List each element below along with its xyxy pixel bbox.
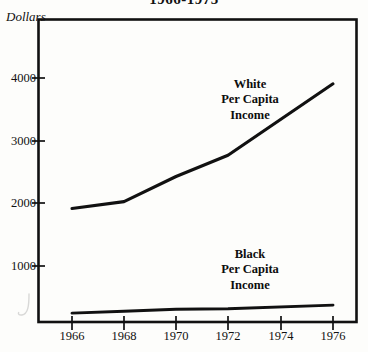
series-label-white-line3: Income <box>194 108 306 123</box>
series-line-black <box>72 305 333 313</box>
x-tick-label-1966: 1966 <box>45 330 99 343</box>
series-label-white-line2: Per Capita <box>194 92 306 107</box>
x-tick-label-1970: 1970 <box>149 330 203 343</box>
series-label-black-line3: Income <box>194 278 306 293</box>
y-axis-tick-labels: 4000 3000 2000 1000 <box>0 0 36 352</box>
y-tick-label-3000: 3000 <box>0 135 36 148</box>
x-tick-label-1976: 1976 <box>306 330 360 343</box>
chart-figure: 1966-1975 Dollars 4000 300 <box>0 0 368 352</box>
y-tick-label-1000: 1000 <box>0 260 36 273</box>
x-axis-tick-labels: 1966 1968 1970 1972 1974 1976 <box>0 330 368 350</box>
series-label-black: Black Per Capita Income <box>194 247 306 293</box>
series-label-black-line1: Black <box>194 247 306 262</box>
y-tick-label-2000: 2000 <box>0 197 36 210</box>
series-label-black-line2: Per Capita <box>194 262 306 277</box>
y-tick-label-4000: 4000 <box>0 72 36 85</box>
series-label-white: White Per Capita Income <box>194 77 306 123</box>
x-tick-label-1974: 1974 <box>254 330 308 343</box>
series-label-white-line1: White <box>194 77 306 92</box>
plot-area <box>0 0 368 352</box>
x-tick-label-1968: 1968 <box>97 330 151 343</box>
x-tick-label-1972: 1972 <box>201 330 255 343</box>
